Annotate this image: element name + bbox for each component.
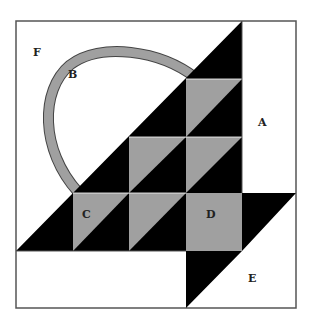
label-b: B: [68, 68, 77, 81]
piece-d-square: [186, 193, 242, 251]
quilt-block-diagram: F B A C D E: [0, 0, 312, 324]
label-f: F: [33, 46, 41, 59]
label-c: C: [82, 208, 91, 221]
label-a: A: [257, 116, 267, 129]
label-e: E: [248, 272, 256, 285]
label-d: D: [206, 208, 216, 221]
